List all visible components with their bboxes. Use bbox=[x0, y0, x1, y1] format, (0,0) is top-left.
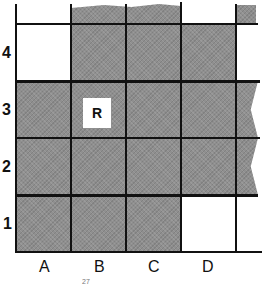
col-label-C: C bbox=[148, 258, 160, 276]
row-label-4: 4 bbox=[2, 44, 11, 62]
grid-line bbox=[125, 4, 127, 253]
grid-line bbox=[16, 80, 260, 83]
row-label-3: 3 bbox=[2, 101, 11, 119]
grid-line bbox=[16, 23, 258, 25]
grid-diagram: R 4 3 2 1 A B C D 27 bbox=[0, 0, 263, 285]
grid-line bbox=[235, 4, 237, 253]
grid-line bbox=[180, 2, 182, 253]
torn-edge-top-right bbox=[236, 5, 256, 24]
col-label-A: A bbox=[39, 258, 50, 276]
grid-line bbox=[16, 137, 260, 139]
marker-label: R bbox=[92, 105, 102, 121]
col-label-B: B bbox=[94, 258, 105, 276]
marker-r: R bbox=[83, 98, 111, 128]
cell-B4 bbox=[71, 24, 236, 81]
grid-line bbox=[16, 194, 258, 197]
grid-line bbox=[16, 251, 262, 253]
grid-line bbox=[15, 4, 17, 253]
row-label-1: 1 bbox=[3, 215, 12, 233]
grid-line bbox=[70, 4, 72, 253]
cell-A1-C1 bbox=[16, 195, 181, 252]
footer-text: 27 bbox=[82, 278, 90, 285]
col-label-D: D bbox=[202, 258, 214, 276]
row-label-2: 2 bbox=[2, 158, 11, 176]
